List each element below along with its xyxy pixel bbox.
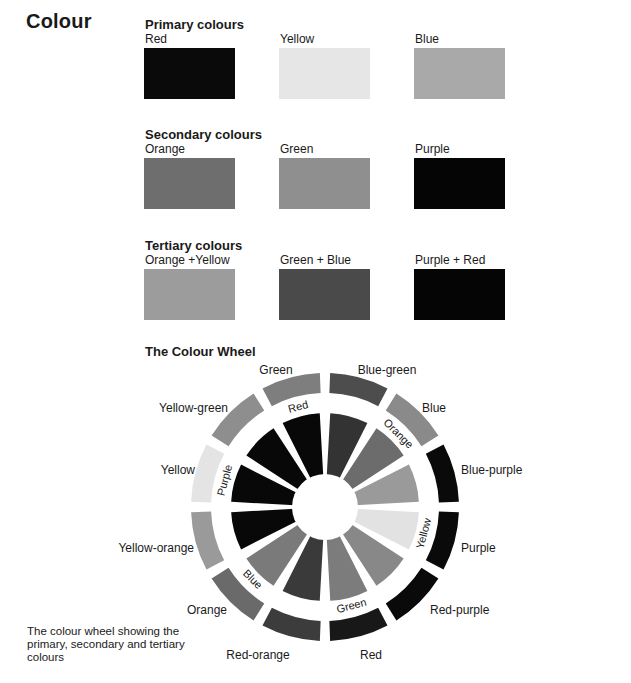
caption: The colour wheel showing the primary, se… [27,625,187,664]
outer-segment-yellow-orange [191,511,224,569]
inner-label-red: Red [287,398,310,415]
outer-segment-red-orange [263,608,321,641]
outer-label-red-orange: Red-orange [226,648,290,662]
outer-label-blue: Blue [422,401,446,415]
outer-label-red-purple: Red-purple [430,603,490,617]
outer-label-yellow-green: Yellow-green [159,401,228,415]
outer-segment-blue-purple [426,445,459,503]
outer-label-red: Red [360,648,382,662]
outer-label-yellow-orange: Yellow-orange [118,541,194,555]
outer-label-blue-green: Blue-green [358,363,417,377]
colour-wheel: Blue-greenBlueBlue-purplePurpleRed-purpl… [0,0,631,683]
outer-label-blue-purple: Blue-purple [461,463,523,477]
outer-label-yellow: Yellow [161,463,196,477]
outer-label-green: Green [259,363,292,377]
outer-label-orange: Orange [187,603,227,617]
outer-label-purple: Purple [461,541,496,555]
outer-segment-blue-green [329,373,387,406]
wheel-center [292,474,358,540]
